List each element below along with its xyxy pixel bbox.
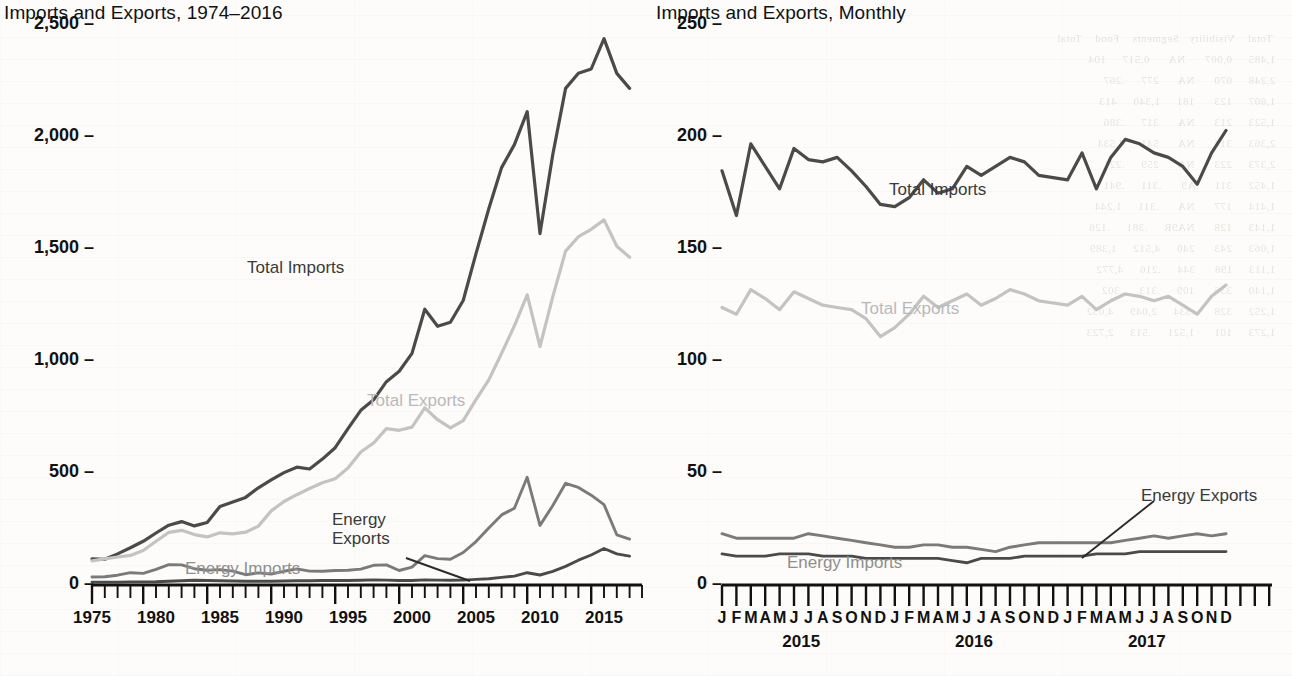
monthly-x-tick-month: F <box>904 609 914 627</box>
monthly-x-tick-month: A <box>817 609 829 627</box>
annual-chart-svg <box>0 46 646 630</box>
monthly-plot-area: 0– 50– 100– 150– 200– 250– <box>646 46 1292 630</box>
monthly-x-tick-month: M <box>1119 609 1132 627</box>
annual-label-total-exports: Total Exports <box>367 391 465 410</box>
monthly-x-tick-month: D <box>1047 609 1059 627</box>
annual-x-tick-1980: 1980 <box>137 608 175 628</box>
monthly-x-tick-month: O <box>1191 609 1203 627</box>
monthly-x-tick-month: D <box>1220 609 1232 627</box>
monthly-x-tick-month: J <box>718 609 727 627</box>
monthly-x-tick-month: F <box>1077 609 1087 627</box>
monthly-x-tick-month: F <box>732 609 742 627</box>
monthly-x-tick-month: M <box>946 609 959 627</box>
monthly-x-tick-month: J <box>1063 609 1072 627</box>
annual-label-total-imports: Total Imports <box>247 258 344 277</box>
energy-exports-leader-line <box>406 558 470 581</box>
monthly-x-tick-month: N <box>1033 609 1045 627</box>
monthly-x-tick-month: O <box>845 609 857 627</box>
monthly-x-tick-month: A <box>1163 609 1175 627</box>
monthly-x-tick-month: J <box>962 609 971 627</box>
line-total-exports-monthly <box>722 285 1226 337</box>
monthly-x-tick-month: N <box>860 609 872 627</box>
monthly-label-energy-exports: Energy Exports <box>1141 486 1257 505</box>
line-total-imports <box>92 39 630 560</box>
monthly-x-tick-year: 2016 <box>955 632 993 652</box>
annual-x-tick-2000: 2000 <box>393 608 431 628</box>
monthly-x-tick-month: J <box>977 609 986 627</box>
monthly-x-tick-month: J <box>1135 609 1144 627</box>
panel-monthly: Imports and Exports, Monthly 0– 50– 100–… <box>646 0 1292 676</box>
line-total-imports-monthly <box>722 131 1226 216</box>
annual-x-tick-2015: 2015 <box>585 608 623 628</box>
line-energy-imports-monthly <box>722 534 1226 552</box>
monthly-x-tick-month: D <box>875 609 887 627</box>
monthly-x-tick-month: S <box>832 609 843 627</box>
monthly-x-tick-year: 2017 <box>1128 632 1166 652</box>
monthly-x-tick-month: J <box>890 609 899 627</box>
annual-x-ticks <box>92 585 642 604</box>
monthly-label-total-imports: Total Imports <box>889 180 986 199</box>
panel-annual: Imports and Exports, 1974–2016 0– 500– 1… <box>0 0 646 676</box>
monthly-x-tick-month: M <box>773 609 786 627</box>
annual-plot-area: 0– 500– 1,000– 1,500– 2,000– 2,500– <box>0 46 646 630</box>
monthly-x-tick-month: M <box>1090 609 1103 627</box>
monthly-x-tick-month: M <box>917 609 930 627</box>
monthly-x-tick-month: J <box>1150 609 1159 627</box>
annual-x-tick-2010: 2010 <box>521 608 559 628</box>
monthly-x-tick-month: M <box>744 609 757 627</box>
monthly-x-tick-month: O <box>1018 609 1030 627</box>
annual-x-tick-1995: 1995 <box>329 608 367 628</box>
monthly-label-energy-imports: Energy Imports <box>787 553 902 572</box>
monthly-x-tick-year: 2015 <box>782 632 820 652</box>
monthly-x-ticks <box>722 585 1269 606</box>
annual-x-tick-1990: 1990 <box>265 608 303 628</box>
annual-label-energy-imports: Energy Imports <box>185 559 300 578</box>
monthly-x-tick-month: N <box>1206 609 1218 627</box>
annual-x-tick-2005: 2005 <box>457 608 495 628</box>
monthly-x-tick-month: S <box>1005 609 1016 627</box>
annual-x-tick-1985: 1985 <box>201 608 239 628</box>
monthly-x-tick-month: A <box>990 609 1002 627</box>
energy-exports-leader-line-monthly <box>1082 501 1154 558</box>
annual-y-tick-2500: 2,500– <box>34 13 94 34</box>
annual-label-energy-exports: Energy Exports <box>332 510 390 548</box>
monthly-x-tick-month: S <box>1177 609 1188 627</box>
monthly-label-total-exports: Total Exports <box>861 299 959 318</box>
monthly-x-tick-month: A <box>759 609 771 627</box>
annual-x-tick-1975: 1975 <box>73 608 111 628</box>
monthly-chart-svg <box>646 46 1292 630</box>
monthly-y-tick-250: 250– <box>677 13 722 34</box>
monthly-x-tick-month: J <box>804 609 813 627</box>
monthly-x-tick-month: J <box>790 609 799 627</box>
monthly-x-tick-month: A <box>932 609 944 627</box>
monthly-x-tick-month: A <box>1105 609 1117 627</box>
